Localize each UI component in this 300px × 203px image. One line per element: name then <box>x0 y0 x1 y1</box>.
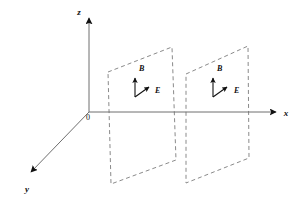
plane-group <box>108 46 249 184</box>
x-axis-label: x <box>283 108 289 118</box>
E-field-label-plane-2: E <box>233 86 239 95</box>
axes-group <box>31 18 276 172</box>
vector-group-plane-2: B E <box>213 64 239 97</box>
figure-canvas: z x y 0 B E B E <box>0 0 300 203</box>
z-axis-label: z <box>76 7 81 17</box>
physics-figure: z x y 0 B E B E <box>0 0 300 203</box>
E-field-arrow-plane-1 <box>135 87 149 97</box>
B-field-label-plane-1: B <box>138 64 145 73</box>
E-field-arrow-plane-2 <box>213 87 227 97</box>
y-axis-label: y <box>24 184 30 194</box>
origin-label: 0 <box>86 113 90 122</box>
y-axis-line <box>31 112 89 172</box>
E-field-label-plane-1: E <box>154 86 160 95</box>
B-field-label-plane-2: B <box>216 64 223 73</box>
vector-group-plane-1: B E <box>135 64 160 97</box>
